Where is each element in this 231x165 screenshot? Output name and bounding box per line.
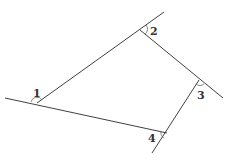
angle-2-arc [145,25,148,34]
quadrilateral-diagram: 1 2 3 4 [0,0,231,165]
angle-3-label: 3 [197,89,205,102]
side-da-extended [5,98,167,133]
side-ab-extended [37,12,164,103]
angle-3-arc [196,84,204,86]
angle-2-label: 2 [150,25,158,38]
angle-4-label: 4 [148,132,156,145]
side-bc-extended [140,30,223,98]
angle-1-label: 1 [33,87,41,100]
side-cd-extended [152,80,199,153]
